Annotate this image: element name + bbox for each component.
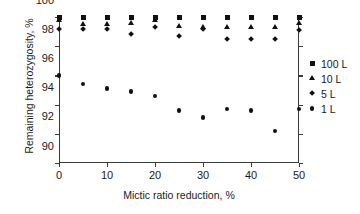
legend-item: 1 L: [307, 101, 359, 116]
x-axis-title: Mictic ratio reduction, %: [59, 189, 299, 201]
data-point: [249, 15, 254, 20]
y-tick-mark-right: [299, 75, 303, 76]
data-point: [153, 94, 158, 99]
data-point: [81, 82, 86, 87]
y-tick-label: 100: [14, 0, 54, 6]
legend-item: 5 L: [307, 86, 359, 101]
triangle-marker-icon: [307, 73, 317, 85]
data-point: [273, 129, 278, 134]
legend-label: 100 L: [321, 58, 347, 70]
scatter-chart-figure: Remaining heterozygosity, % Mictic ratio…: [0, 0, 360, 214]
data-point: [177, 108, 182, 113]
data-point: [56, 17, 62, 22]
x-tick-label: 50: [279, 170, 319, 181]
data-point: [128, 20, 134, 25]
square-marker-icon: [307, 58, 317, 70]
x-tick-label: 20: [135, 170, 175, 181]
chart-legend: 100 L10 L5 L1 L: [307, 56, 359, 116]
data-point: [201, 15, 206, 20]
data-point: [80, 26, 86, 32]
y-tick-label: 92: [14, 111, 54, 122]
x-tick-mark: [107, 163, 108, 167]
data-point: [201, 115, 206, 120]
data-point: [248, 24, 254, 29]
y-axis-right-line: [298, 17, 299, 163]
data-point: [152, 17, 158, 22]
data-point: [249, 108, 254, 113]
x-tick-mark: [59, 163, 60, 167]
data-point: [129, 89, 134, 94]
x-tick-label: 40: [231, 170, 271, 181]
y-tick-label: 94: [14, 82, 54, 93]
data-point: [176, 33, 182, 39]
data-point: [177, 15, 182, 20]
x-tick-label: 30: [183, 170, 223, 181]
x-tick-label: 0: [39, 170, 79, 181]
data-point: [176, 23, 182, 28]
data-point: [297, 107, 302, 112]
data-point: [81, 15, 86, 20]
data-point: [296, 20, 302, 25]
data-point: [105, 15, 110, 20]
data-point: [224, 36, 230, 42]
legend-item: 100 L: [307, 56, 359, 71]
plot-area: 01020304050: [59, 17, 299, 163]
data-point: [224, 24, 230, 29]
x-tick-mark: [251, 163, 252, 167]
y-tick-mark-right: [299, 46, 303, 47]
y-tick-mark-right: [299, 105, 303, 106]
data-point: [272, 24, 278, 29]
data-point: [248, 36, 254, 42]
y-tick-label: 98: [14, 24, 54, 35]
data-point: [152, 24, 158, 30]
x-tick-label: 10: [87, 170, 127, 181]
data-point: [104, 26, 110, 32]
data-point: [128, 32, 134, 38]
x-axis-line: [59, 162, 299, 163]
data-point: [272, 36, 278, 42]
y-axis-line: [59, 17, 60, 163]
legend-label: 5 L: [321, 88, 336, 100]
data-point: [57, 73, 62, 78]
circle-marker-icon: [307, 103, 317, 115]
data-point: [225, 15, 230, 20]
legend-label: 1 L: [321, 103, 336, 115]
diamond-marker-icon: [307, 88, 317, 100]
x-tick-mark: [299, 163, 300, 167]
x-tick-mark: [155, 163, 156, 167]
x-tick-mark: [203, 163, 204, 167]
data-point: [56, 26, 62, 32]
data-point: [296, 27, 302, 33]
y-tick-label: 90: [14, 141, 54, 152]
y-tick-mark: [55, 46, 59, 47]
data-point: [273, 15, 278, 20]
legend-label: 10 L: [321, 73, 341, 85]
data-point: [105, 86, 110, 91]
y-tick-label: 96: [14, 53, 54, 64]
y-tick-mark-right: [299, 134, 303, 135]
y-tick-mark: [55, 105, 59, 106]
legend-item: 10 L: [307, 71, 359, 86]
y-tick-mark: [55, 134, 59, 135]
data-point: [225, 107, 230, 112]
